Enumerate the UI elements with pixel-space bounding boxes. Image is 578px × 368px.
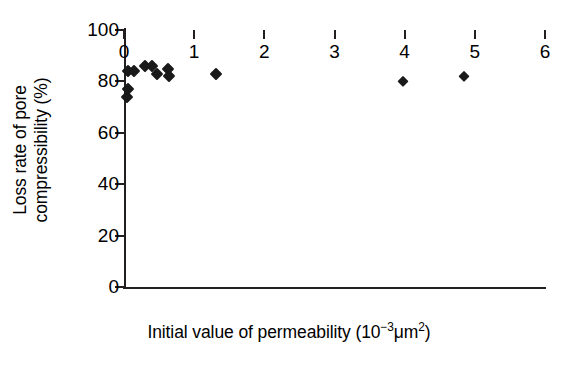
x-axis-tick-label: 2 (259, 41, 270, 63)
x-axis-tick-label: 4 (399, 41, 410, 63)
x-axis-label: Initial value of permeability (10−3μm2) (0, 322, 578, 343)
x-axis-line (123, 287, 546, 289)
y-axis-tick-label: 60 (98, 122, 119, 144)
data-point (459, 71, 470, 82)
data-point (210, 67, 223, 80)
x-axis-tick-label: 5 (470, 41, 481, 63)
scatter-chart-figure: Loss rate of pore compressibility (%) 02… (0, 0, 578, 368)
x-axis-tick (193, 30, 195, 39)
x-axis-tick (404, 30, 406, 39)
x-axis-tick (263, 30, 265, 39)
x-axis-tick-label: 0 (119, 41, 130, 63)
x-axis-label-prefix: Initial value of permeability (10 (147, 322, 380, 342)
y-axis-tick-label: 20 (98, 225, 119, 247)
plot-area: 0204060801000123456 (124, 30, 545, 287)
y-axis-tick-label: 100 (87, 19, 119, 41)
x-axis-label-mid: μm (394, 322, 418, 342)
data-point (398, 76, 409, 87)
x-axis-tick (334, 30, 336, 39)
x-axis-tick (544, 30, 546, 39)
y-axis-tick-label: 40 (98, 173, 119, 195)
y-axis-label-line-1: Loss rate of pore (10, 78, 31, 223)
y-axis-tick-label: 80 (98, 70, 119, 92)
y-axis-label-line-2: compressibility (%) (31, 78, 52, 223)
x-axis-tick-label: 3 (329, 41, 340, 63)
x-axis-tick (474, 30, 476, 39)
x-axis-label-suffix: ) (425, 322, 431, 342)
x-axis-label-exponent-1: −3 (381, 320, 394, 334)
y-axis-label: Loss rate of pore compressibility (%) (0, 0, 62, 300)
y-axis-tick-label: 0 (108, 276, 119, 298)
x-axis-tick (123, 30, 125, 39)
x-axis-tick-label: 1 (189, 41, 200, 63)
x-axis-tick-label: 6 (540, 41, 551, 63)
